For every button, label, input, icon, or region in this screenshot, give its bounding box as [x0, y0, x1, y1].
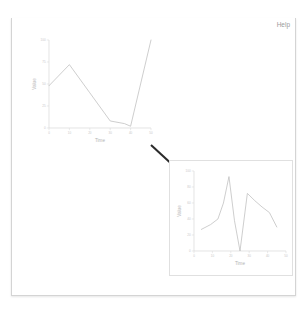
y-tick-label: 0 — [189, 249, 191, 253]
y-tick-label: 75 — [42, 60, 46, 64]
window-content: Help 010203040500255075100TimeValue 0102… — [12, 18, 295, 295]
y-axis-label: Value — [177, 205, 182, 217]
data-series-line — [49, 40, 151, 126]
x-tick-label: 40 — [266, 254, 270, 258]
x-tick-label: 10 — [211, 254, 215, 258]
x-axis-label: Time — [95, 138, 105, 143]
chart-axes — [194, 171, 286, 251]
y-axis-label: Value — [32, 78, 37, 90]
y-tick-label: 50 — [42, 82, 46, 86]
x-tick-label: 20 — [229, 254, 233, 258]
x-tick-label: 50 — [149, 131, 153, 135]
help-link[interactable]: Help — [277, 21, 290, 28]
y-tick-label: 100 — [41, 38, 46, 42]
y-tick-label: 80 — [187, 185, 191, 189]
x-tick-label: 20 — [88, 131, 92, 135]
x-tick-label: 30 — [248, 254, 252, 258]
x-tick-label: 40 — [129, 131, 133, 135]
y-tick-label: 20 — [187, 233, 191, 237]
application-window: Help 010203040500255075100TimeValue 0102… — [11, 18, 296, 296]
line-chart-primary: 010203040500255075100TimeValue — [25, 34, 157, 150]
line-chart-secondary: 01020304050020406080100TimeValue — [170, 161, 292, 275]
x-tick-label: 10 — [68, 131, 72, 135]
chart-axes — [49, 40, 151, 128]
x-tick-label: 0 — [193, 254, 195, 258]
data-series-line — [201, 177, 276, 251]
x-tick-label: 50 — [284, 254, 288, 258]
y-tick-label: 0 — [44, 126, 46, 130]
chart-panel-secondary: 01020304050020406080100TimeValue — [169, 160, 293, 276]
x-axis-label: Time — [235, 261, 245, 266]
x-tick-label: 0 — [48, 131, 50, 135]
y-tick-label: 100 — [186, 169, 191, 173]
x-tick-label: 30 — [109, 131, 113, 135]
y-tick-label: 25 — [42, 104, 46, 108]
y-tick-label: 40 — [187, 217, 191, 221]
chart-panel-primary: 010203040500255075100TimeValue — [25, 34, 157, 150]
y-tick-label: 60 — [187, 201, 191, 205]
